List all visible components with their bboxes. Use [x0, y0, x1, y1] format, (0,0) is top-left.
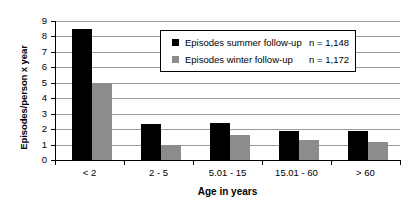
x-axis-tick-mark — [55, 160, 56, 165]
x-axis-tick-mark — [331, 160, 332, 165]
y-axis-tick-label: 1 — [31, 140, 47, 150]
x-axis-tick-mark — [193, 160, 194, 165]
bar — [279, 131, 299, 160]
bar — [348, 131, 368, 160]
x-axis-line — [55, 160, 400, 161]
bar — [72, 29, 92, 160]
bar — [230, 135, 250, 160]
x-axis-tick-mark — [262, 160, 263, 165]
y-axis-tick-label: 2 — [31, 124, 47, 134]
legend-swatch-summer-icon — [172, 39, 179, 46]
legend-item-winter: Episodes winter follow-up n = 1,172 — [161, 52, 357, 67]
y-axis-tick-label: 8 — [31, 31, 47, 41]
bar — [368, 142, 388, 160]
x-axis-tick-mark — [124, 160, 125, 165]
y-axis-tick-label: 0 — [31, 155, 47, 165]
y-axis-tick-label: 7 — [31, 47, 47, 57]
y-axis-tick-label: 3 — [31, 109, 47, 119]
y-axis-tick-label: 4 — [31, 93, 47, 103]
legend-n-winter: n = 1,172 — [309, 54, 349, 65]
x-axis-category-label: 5.01 - 15 — [193, 167, 262, 178]
x-axis-tick-mark — [400, 160, 401, 165]
legend-label-summer: Episodes summer follow-up — [185, 37, 302, 48]
y-axis-tick-label: 9 — [31, 16, 47, 26]
legend-n-summer: n = 1,148 — [309, 37, 349, 48]
y-axis-tick-label: 5 — [31, 78, 47, 88]
legend: Episodes summer follow-up n = 1,148 Epis… — [160, 30, 356, 72]
legend-label-winter: Episodes winter follow-up — [185, 54, 293, 65]
y-axis-tick-label: 6 — [31, 62, 47, 72]
x-axis-category-label: > 60 — [331, 167, 400, 178]
y-axis-title: Episodes/person x year — [18, 23, 29, 173]
bar-chart: Episodes/person x year 0123456789 < 22 -… — [0, 0, 410, 211]
x-axis-category-label: < 2 — [55, 167, 124, 178]
bar — [299, 140, 319, 160]
bar — [161, 145, 181, 160]
bar-group — [72, 21, 112, 160]
legend-swatch-winter-icon — [172, 56, 179, 63]
bar — [92, 83, 112, 160]
legend-item-summer: Episodes summer follow-up n = 1,148 — [161, 35, 357, 50]
x-axis-title: Age in years — [55, 186, 400, 197]
x-axis-category-label: 2 - 5 — [124, 167, 193, 178]
x-axis-category-label: 15.01 - 60 — [262, 167, 331, 178]
bar — [210, 123, 230, 160]
bar — [141, 124, 161, 160]
